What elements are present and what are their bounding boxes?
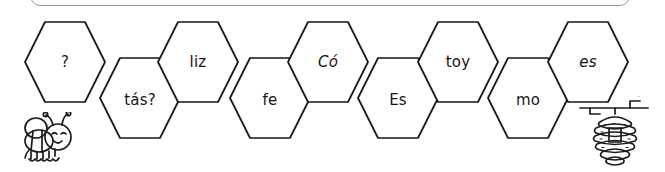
hex-cell[interactable]: ? [24,21,106,103]
hex-cell[interactable]: es [547,21,629,103]
hex-label: es [547,21,629,103]
worksheet-canvas: ?tás?lizfeCóEstoymoes [0,0,665,172]
hex-cell[interactable]: liz [157,21,239,103]
hex-label: ? [24,21,106,103]
hex-label: liz [157,21,239,103]
bee-icon [17,112,79,168]
top-panel-frame [30,0,630,6]
beehive-icon [578,96,652,168]
